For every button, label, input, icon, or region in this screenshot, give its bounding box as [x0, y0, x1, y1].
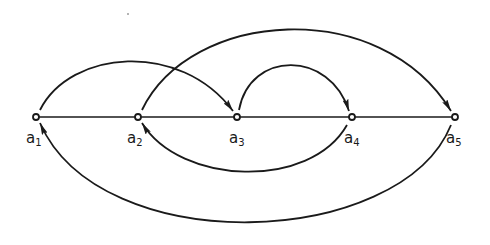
node-label-a1: a1 [26, 131, 42, 148]
speck-mark [127, 13, 129, 15]
node-label-a3: a3 [229, 131, 245, 148]
node-a1 [33, 114, 39, 120]
directed-graph-diagram [0, 0, 490, 245]
node-label-a4: a4 [344, 131, 360, 148]
node-label-a5: a5 [446, 131, 462, 148]
edge-a3-to-a4 [239, 65, 349, 111]
edge-a1-to-a3 [40, 61, 233, 111]
node-a5 [452, 114, 458, 120]
node-a4 [349, 114, 355, 120]
edge-a5-to-a1 [40, 123, 451, 222]
node-a2 [135, 114, 141, 120]
node-label-a2: a2 [127, 131, 143, 148]
edge-a2-to-a5 [142, 29, 451, 111]
node-a3 [234, 114, 240, 120]
